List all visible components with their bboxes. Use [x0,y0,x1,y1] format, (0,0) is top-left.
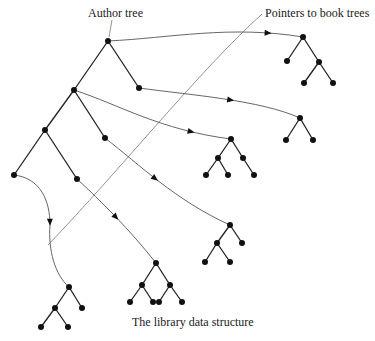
book-tree-edge [218,139,231,158]
book-tree-node [179,299,185,305]
book-tree-node [167,282,173,288]
author-tree-edge [74,41,108,90]
book-tree-edge [303,37,319,62]
book-tree-edge [206,158,218,175]
book-tree-node [139,282,145,288]
author-tree-edge [45,90,74,130]
book-tree-node [214,240,220,246]
author-tree-edge [14,130,45,175]
book-tree-edge [243,158,254,175]
book-tree-pointers [14,30,303,287]
book-tree-node [297,115,303,121]
book-tree-node [310,137,316,143]
book-tree-edge [41,308,55,327]
diagram-caption: The library data structure [132,316,254,328]
author-tree-edge [74,90,105,138]
book-tree-node [203,172,209,178]
book-tree-node [65,324,71,330]
pointer-curve [139,88,300,118]
book-tree-node [316,59,322,65]
book-tree-edge [156,263,170,285]
book-tree-5 [127,260,185,305]
book-tree-node [150,299,156,305]
arrowhead-icon [264,30,271,36]
book-tree-3 [203,136,257,178]
book-tree-edge [130,285,142,302]
book-tree-node [283,137,289,143]
book-tree-node [225,172,231,178]
book-tree-edge [170,285,182,302]
author-tree-node [71,87,77,93]
book-tree-edge [205,243,217,262]
book-tree-node [301,80,307,86]
book-tree-node [127,299,133,305]
book-tree-node [284,58,290,64]
book-tree-edge [142,285,153,302]
arrowhead-icon [187,128,195,135]
library-data-structure-diagram [0,0,375,341]
book-tree-edge [286,118,300,140]
book-tree-edge [319,62,333,83]
book-tree-node [227,259,233,265]
book-tree-node [52,305,58,311]
book-tree-edge [304,62,319,83]
book-tree-node [79,305,85,311]
book-tree-edge [230,225,242,243]
book-tree-node [228,136,234,142]
author-tree-edge [45,130,77,179]
book-tree-node [215,155,221,161]
book-tree-2 [283,115,316,143]
book-tree-1 [284,34,336,86]
book-tree-node [38,324,44,330]
book-tree-edge [69,287,82,308]
book-tree-edge [142,263,156,285]
pointer-curve [77,179,156,263]
book-tree-edge [159,285,170,302]
book-tree-node [239,240,245,246]
book-tree-node [153,260,159,266]
arrowhead-icon [227,96,235,103]
author-tree-node [136,85,142,91]
book-tree-edge [55,287,69,308]
book-tree-node [251,172,257,178]
author-tree-node [42,127,48,133]
arrowhead-icon [47,219,53,226]
book-tree-node [156,299,162,305]
book-tree-edge [300,118,313,140]
label-leader-lines [48,14,262,245]
author-tree-edge [108,41,139,88]
book-tree-node [300,34,306,40]
book-tree-node [227,222,233,228]
pointer-curve [105,138,230,225]
book-tree-node [202,259,208,265]
book-tree-edge [217,225,230,243]
author-tree [11,38,142,182]
book-tree-edge [55,308,68,327]
book-tree-edge [287,37,303,61]
book-tree-6 [38,284,85,330]
book-tree-node [330,80,336,86]
book-tree-node [66,284,72,290]
book-tree-node [240,155,246,161]
author-tree-label: Author tree [88,7,143,19]
author-leader-line [109,20,112,37]
pointer-curve [74,90,231,139]
author-tree-node [11,172,17,178]
author-tree-node [102,135,108,141]
author-tree-node [105,38,111,44]
book-tree-edge [231,139,243,158]
pointers-leader-line [48,14,262,245]
pointer-curve [108,32,303,41]
author-tree-node [74,176,80,182]
pointers-label: Pointers to book trees [265,7,369,19]
book-tree-4 [202,222,245,265]
book-tree-edge [217,243,230,262]
